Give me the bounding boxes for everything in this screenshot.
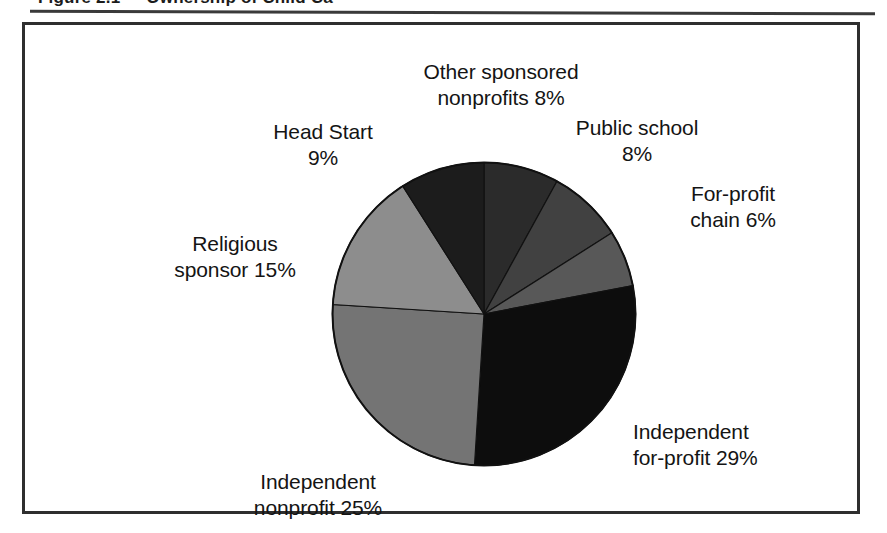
figure-caption-clipped: Figure 2.1Ownership of Child Ca	[0, 0, 887, 9]
slice-label-head-start: Head Start 9%	[233, 119, 413, 171]
slice-label-public-school: Public school 8%	[547, 115, 727, 167]
figure-caption-title: Ownership of Child Ca	[146, 0, 333, 7]
figure-caption: Figure 2.1Ownership of Child Ca	[38, 0, 333, 8]
pie-slice	[333, 304, 484, 465]
slice-label-religious-sponsor: Religious sponsor 15%	[135, 231, 335, 283]
figure-page: Figure 2.1Ownership of Child Ca Other sp…	[0, 0, 887, 533]
pie-slice-group	[333, 163, 636, 466]
slice-label-for-profit-chain: For-profit chain 6%	[653, 181, 813, 233]
slice-label-independent-for-profit: Independent for-profit 29%	[633, 419, 863, 471]
pie-slice	[474, 286, 635, 466]
slice-label-other-sponsored-nonprofits: Other sponsored nonprofits 8%	[381, 59, 621, 111]
figure-caption-number: Figure 2.1	[38, 0, 120, 7]
caption-divider-rule	[30, 10, 875, 16]
pie-chart	[331, 161, 637, 467]
pie-chart-svg	[331, 161, 637, 467]
slice-label-independent-nonprofit: Independent nonprofit 25%	[193, 469, 443, 521]
chart-frame: Other sponsored nonprofits 8% Public sch…	[22, 22, 860, 514]
